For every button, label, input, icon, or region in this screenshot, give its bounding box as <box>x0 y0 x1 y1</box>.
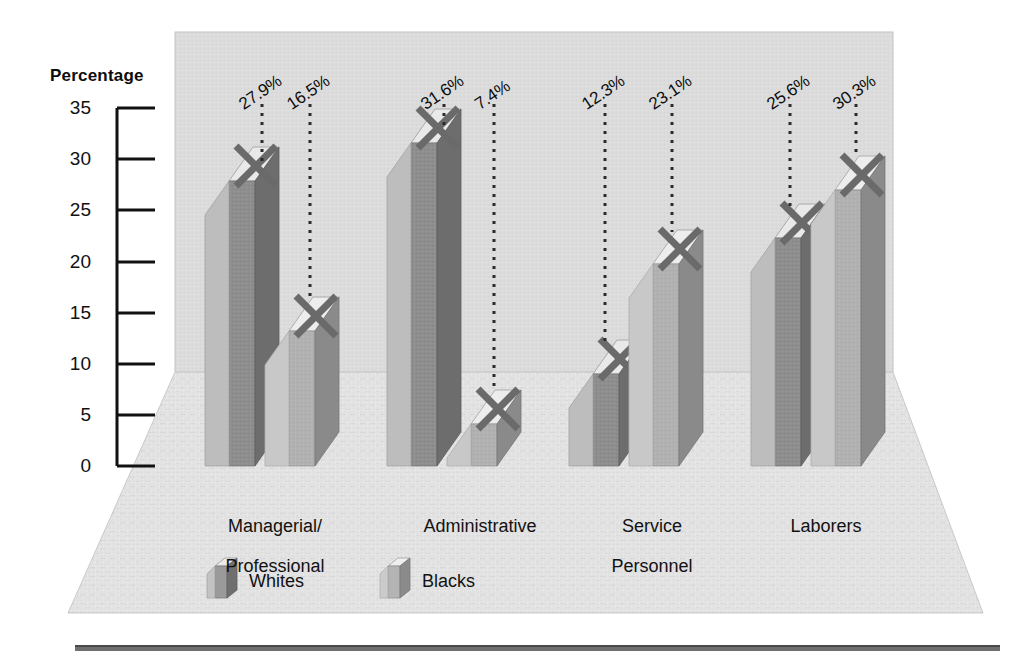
y-axis <box>117 108 155 466</box>
y-tick-label-35: 35 <box>45 98 91 117</box>
y-tick-label-20: 20 <box>45 252 91 271</box>
y-tick-label-0: 0 <box>45 456 91 475</box>
legend-label-whites: Whites <box>249 571 304 592</box>
category-line-1: Managerial/ <box>180 516 370 536</box>
category-line-1: Service <box>562 516 742 536</box>
category-line-1: Laborers <box>736 516 916 536</box>
y-tick-label-25: 25 <box>45 200 91 219</box>
legend-label-blacks: Blacks <box>422 571 475 592</box>
y-tick-label-15: 15 <box>45 303 91 322</box>
chart-figure: Percentage 35 30 25 20 15 10 5 0 27.9% 1… <box>0 0 1009 655</box>
y-tick-label-30: 30 <box>45 149 91 168</box>
bar-whites-administrative <box>387 108 461 466</box>
y-tick-label-5: 5 <box>45 405 91 424</box>
category-label-administrative: Administrative <box>385 496 575 556</box>
category-label-laborers: Laborers <box>736 496 916 556</box>
category-line-1: Administrative <box>385 516 575 536</box>
y-tick-label-10: 10 <box>45 354 91 373</box>
category-line-2: Personnel <box>562 556 742 576</box>
category-label-service-personnel: Service Personnel <box>562 496 742 597</box>
y-axis-title: Percentage <box>50 66 144 86</box>
bottom-rule <box>75 645 1000 651</box>
